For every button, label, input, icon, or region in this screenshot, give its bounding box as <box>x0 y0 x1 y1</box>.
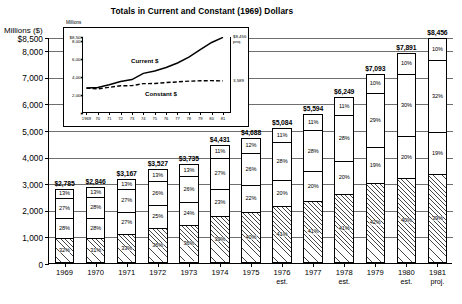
bar-segment-label: 13% <box>152 173 163 179</box>
bar-segment-other-federal: 19% <box>429 133 447 175</box>
bar-total-label: $8,456 <box>415 29 459 36</box>
bar-segment-label: 23% <box>214 200 225 206</box>
bar-segment-nih: 39% <box>429 175 447 262</box>
bar-total-label: $7,891 <box>384 44 428 51</box>
bar-segment-label: 24% <box>183 211 194 217</box>
inset-end-sublabel: proj. <box>233 39 246 44</box>
bar-segment-industry: 27% <box>118 190 136 212</box>
bar-segment-label: 28% <box>59 226 70 232</box>
x-axis-tick <box>313 264 314 267</box>
bar-segment-other: 13% <box>56 190 74 199</box>
bar-segment-industry: 26% <box>242 154 260 186</box>
bar-segment-industry: 28% <box>304 131 322 172</box>
inset-y-tick-label: 8,000 <box>43 39 83 44</box>
x-axis-tick <box>282 264 283 267</box>
inset-y-tick-label: 0 <box>43 111 83 116</box>
bar-segment-label: 20% <box>401 155 412 161</box>
bar-segment-industry: 28% <box>87 198 105 219</box>
bar-segment-label: 20% <box>339 175 350 181</box>
bar-segment-label: 28% <box>308 149 319 155</box>
bar-segment-label: 13% <box>121 182 132 188</box>
bar-segment-label: 13% <box>59 191 70 197</box>
bar-segment-label: 27% <box>59 206 70 212</box>
x-axis-tick-label: 1971 <box>118 268 135 277</box>
bar-segment-industry: 28% <box>335 116 353 162</box>
inset-end-label-group-current: $8,456proj. <box>233 34 246 44</box>
bar-segment-label: 32% <box>432 94 443 100</box>
bar-segment-label: 27% <box>121 220 132 226</box>
bar: 13%27%28%32% <box>55 189 75 263</box>
bar-segment-other: 11% <box>335 98 353 116</box>
x-axis-tick <box>375 264 376 267</box>
bar: 12%26%22%40% <box>241 138 261 263</box>
bar-segment-label: 39% <box>214 237 226 243</box>
bar-segment-label: 40% <box>245 235 257 241</box>
bar-segment-other: 13% <box>118 180 136 191</box>
bar-segment-label: 10% <box>432 47 443 53</box>
x-axis-tick-label: 1980 <box>398 268 415 277</box>
bar-total-label: $5,594 <box>291 105 335 112</box>
bar-segment-label: 42% <box>369 220 381 226</box>
x-axis-tick-label: 1979 <box>367 268 384 277</box>
bar-segment-label: 13% <box>183 168 194 174</box>
bar-segment-label: 32% <box>59 248 71 254</box>
bar-segment-nih: 32% <box>56 239 74 262</box>
bar-segment-label: 41% <box>307 229 319 235</box>
bar-segment-industry: 27% <box>56 199 74 218</box>
bar-segment-label: 26% <box>183 187 194 193</box>
x-axis-tick-label: 1974 <box>211 268 228 277</box>
x-axis-tick <box>437 264 438 267</box>
bar-segment-label: 28% <box>90 205 101 211</box>
x-axis-tick-label: 1969 <box>56 268 73 277</box>
inset-y-tick-label: 2,000 <box>43 93 83 98</box>
y-axis-tick-label: 7,000 <box>0 73 43 83</box>
x-axis-tick-label: 1975 <box>243 268 260 277</box>
bar-segment-other-federal: 23% <box>211 190 229 217</box>
y-axis-tick <box>45 264 49 265</box>
inset-y-tick-label: 6,000 <box>43 57 83 62</box>
bar-segment-other: 13% <box>180 165 198 178</box>
bar-segment-nih: 31% <box>87 239 105 262</box>
bar-total-label: $3,735 <box>167 155 211 162</box>
bar-segment-label: 30% <box>401 103 412 109</box>
y-axis-tick <box>45 131 49 132</box>
y-axis-tick <box>45 237 49 238</box>
inset-end-label-constant: 3,589 <box>233 78 244 83</box>
bar-segment-nih: 40% <box>398 179 416 262</box>
x-axis-tick <box>65 264 66 267</box>
bar: 13%28%28%31% <box>86 187 106 263</box>
x-axis-tick <box>96 264 97 267</box>
bar-segment-label: 20% <box>277 191 288 197</box>
bar-segment-label: 11% <box>308 120 318 126</box>
y-axis-tick <box>45 104 49 105</box>
bar-segment-label: 11% <box>277 133 287 139</box>
bar-segment-label: 28% <box>90 226 101 232</box>
bar-segment-other-federal: 22% <box>242 186 260 213</box>
bar-segment-other-federal: 19% <box>367 148 385 183</box>
inset-chart: Millions $8,5008,0006,0004,0002,00001969… <box>63 27 249 127</box>
bar-segment-label: 28% <box>339 136 350 142</box>
bar-total-label: $3,167 <box>105 170 149 177</box>
x-axis-tick-label: 1977 <box>305 268 322 277</box>
chart-figure: Totals in Current and Constant (1969) Do… <box>0 0 462 304</box>
bar: 10%32%19%39% <box>428 38 448 263</box>
bar-total-label: $4,688 <box>229 129 273 136</box>
inset-right-axis <box>230 37 231 113</box>
inset-y-axis-title: Millions <box>66 20 81 25</box>
x-axis-tick-label: 1973 <box>180 268 197 277</box>
x-axis-tick-label: 1976 <box>274 268 291 277</box>
bar-segment-other: 13% <box>149 170 167 182</box>
bar: 11%28%20%41% <box>272 128 292 263</box>
bar: 10%30%20%40% <box>397 53 417 263</box>
bar-segment-label: 28% <box>277 159 288 165</box>
bar-segment-label: 36% <box>152 243 164 249</box>
bar-segment-label: 31% <box>90 248 102 254</box>
y-axis-tick-label: 2,000 <box>0 206 43 216</box>
x-axis-label-group: 1981proj. <box>419 268 455 286</box>
bar-total-label: $2,846 <box>74 178 118 185</box>
x-axis-tick <box>220 264 221 267</box>
bar-segment-label: 19% <box>432 151 443 157</box>
bar-total-label: $7,093 <box>353 65 397 72</box>
x-axis-tick <box>344 264 345 267</box>
bar-segment-label: 41% <box>276 232 288 238</box>
